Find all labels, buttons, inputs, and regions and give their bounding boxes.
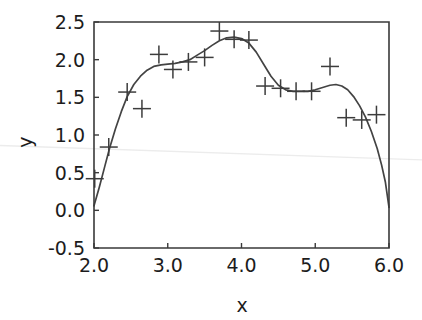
fitted-curve bbox=[94, 37, 389, 207]
data-point-marker bbox=[133, 100, 151, 118]
y-tick-label: -0.5 bbox=[48, 237, 85, 259]
data-point-marker bbox=[196, 48, 214, 66]
data-point-marker bbox=[337, 109, 355, 127]
x-tick-label: 3.0 bbox=[153, 254, 183, 276]
data-point-marker bbox=[303, 82, 321, 100]
y-axis-title: y bbox=[14, 136, 36, 147]
data-point-marker bbox=[210, 22, 228, 40]
data-point-marker bbox=[179, 53, 197, 71]
x-axis-title: x bbox=[236, 294, 247, 316]
y-tick-label: 2.0 bbox=[55, 49, 85, 71]
y-tick-label: 0.5 bbox=[55, 162, 85, 184]
data-point-marker bbox=[321, 57, 339, 75]
data-point-marker bbox=[353, 111, 371, 129]
data-point-marker bbox=[367, 106, 385, 124]
curve-path bbox=[94, 37, 389, 207]
data-point-marker bbox=[225, 30, 243, 48]
data-point-marker bbox=[287, 82, 305, 100]
x-tick-label: 4.0 bbox=[226, 254, 256, 276]
data-point-marker bbox=[100, 138, 118, 156]
data-markers bbox=[86, 22, 386, 188]
chart-page: 2.03.04.05.06.0 -0.50.00.51.01.52.02.5 x… bbox=[0, 0, 422, 320]
y-tick-label: 1.0 bbox=[55, 124, 85, 146]
axes-box bbox=[94, 22, 389, 248]
scatter-plot-figure: 2.03.04.05.06.0 -0.50.00.51.01.52.02.5 x… bbox=[0, 0, 422, 320]
data-point-marker bbox=[272, 79, 290, 97]
scan-artifact bbox=[0, 146, 422, 160]
x-tick-label: 6.0 bbox=[374, 254, 404, 276]
y-tick-label: 2.5 bbox=[55, 11, 85, 33]
y-axis-ticks: -0.50.00.51.01.52.02.5 bbox=[48, 11, 99, 259]
plot-frame bbox=[94, 22, 389, 248]
data-point-marker bbox=[240, 31, 258, 49]
y-tick-label: 0.0 bbox=[55, 199, 85, 221]
y-tick-label: 1.5 bbox=[55, 86, 85, 108]
data-point-marker bbox=[150, 45, 168, 63]
x-tick-label: 5.0 bbox=[300, 254, 330, 276]
data-point-marker bbox=[256, 77, 274, 95]
